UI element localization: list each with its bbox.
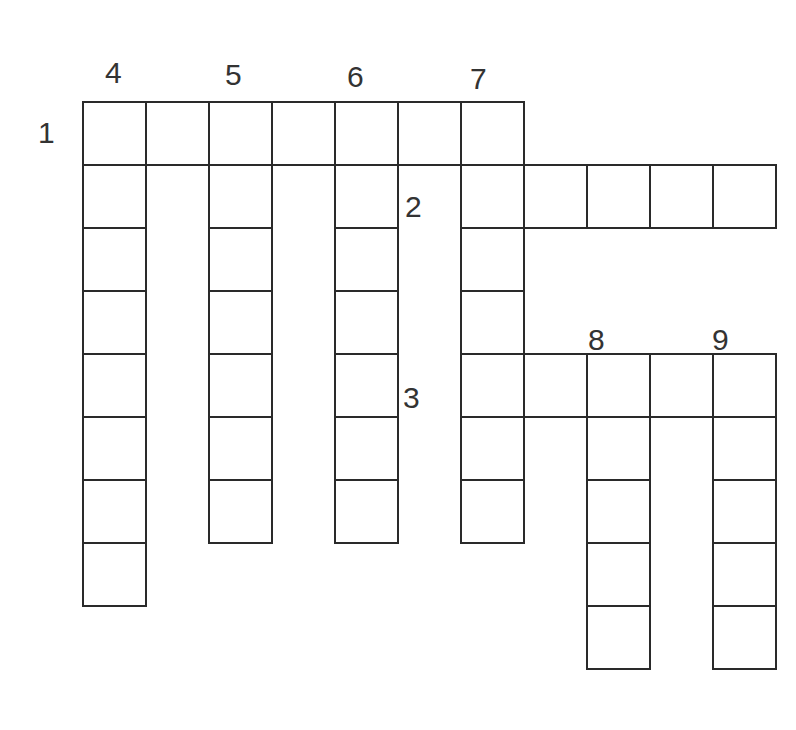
grid-cell[interactable] [586,353,651,418]
grid-cell[interactable] [334,101,399,166]
grid-cell[interactable] [208,227,273,292]
grid-cell[interactable] [523,164,588,229]
grid-cell[interactable] [712,479,777,544]
grid-cell[interactable] [208,290,273,355]
clue-number-label: 9 [712,325,729,355]
grid-cell[interactable] [460,353,525,418]
grid-cell[interactable] [460,164,525,229]
grid-cell[interactable] [82,290,147,355]
grid-cell[interactable] [145,101,210,166]
grid-cell[interactable] [82,227,147,292]
clue-number-label: 8 [588,325,605,355]
crossword-grid: 123456789 [0,0,796,730]
grid-cell[interactable] [523,353,588,418]
grid-cell[interactable] [82,164,147,229]
grid-cell[interactable] [712,416,777,481]
grid-cell[interactable] [208,479,273,544]
grid-cell[interactable] [712,605,777,670]
grid-cell[interactable] [712,353,777,418]
clue-number-label: 1 [38,118,55,148]
grid-cell[interactable] [208,164,273,229]
grid-cell[interactable] [712,542,777,607]
clue-number-label: 3 [403,383,420,413]
clue-number-label: 5 [225,60,242,90]
grid-cell[interactable] [82,479,147,544]
grid-cell[interactable] [586,479,651,544]
grid-cell[interactable] [208,416,273,481]
grid-cell[interactable] [208,101,273,166]
clue-number-label: 2 [405,192,422,222]
grid-cell[interactable] [82,353,147,418]
grid-cell[interactable] [397,101,462,166]
grid-cell[interactable] [82,542,147,607]
grid-cell[interactable] [334,416,399,481]
grid-cell[interactable] [460,416,525,481]
grid-cell[interactable] [649,164,714,229]
grid-cell[interactable] [460,290,525,355]
grid-cell[interactable] [271,101,336,166]
grid-cell[interactable] [334,353,399,418]
grid-cell[interactable] [82,416,147,481]
grid-cell[interactable] [460,227,525,292]
grid-cell[interactable] [460,479,525,544]
clue-number-label: 6 [347,62,364,92]
clue-number-label: 4 [105,58,122,88]
grid-cell[interactable] [334,479,399,544]
grid-cell[interactable] [712,164,777,229]
grid-cell[interactable] [208,353,273,418]
grid-cell[interactable] [586,605,651,670]
grid-cell[interactable] [334,164,399,229]
grid-cell[interactable] [334,227,399,292]
grid-cell[interactable] [586,416,651,481]
grid-cell[interactable] [649,353,714,418]
grid-cell[interactable] [586,542,651,607]
grid-cell[interactable] [334,290,399,355]
clue-number-label: 7 [470,64,487,94]
grid-cell[interactable] [586,164,651,229]
grid-cell[interactable] [460,101,525,166]
grid-cell[interactable] [82,101,147,166]
